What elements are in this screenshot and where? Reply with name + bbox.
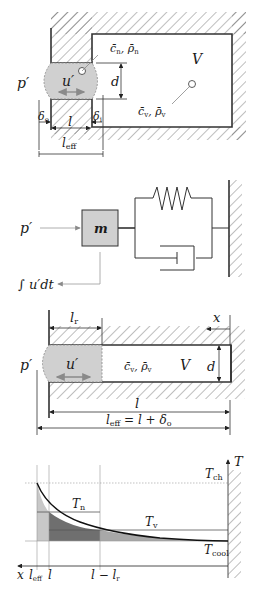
panel-mass-spring-damper: p′ m ∫ u′dt (18, 180, 242, 292)
pressure-label: p′ (17, 75, 30, 91)
T-axis-label: T (234, 454, 244, 469)
panel-tube-resonator: lr x p′ u′ c̄v, ρ̄v V d l leff = l + δo (20, 310, 245, 435)
diameter-label: d (207, 359, 215, 374)
hatch-neck-top (51, 12, 92, 63)
probe-cavity-icon (189, 81, 196, 88)
length-label: l (135, 396, 139, 411)
delta-o-label: δo (38, 110, 49, 124)
diameter-label: d (111, 74, 119, 89)
panel-helmholtz-geometry: d p′ u′ V c̄n, ρ̄n c̄v, ρ̄v δo δi l leff (17, 12, 246, 157)
velocity-label: u′ (66, 356, 79, 372)
pressure-label: p′ (20, 357, 33, 373)
spring-icon (135, 187, 212, 258)
l-eff-equation: leff = l + δo (106, 413, 172, 428)
integral-label: ∫ u′dt (18, 277, 55, 292)
hatch-bottom (51, 127, 246, 140)
pressure-label: p′ (20, 220, 33, 236)
x-tick-l-minus-lr: l − lr (91, 568, 120, 583)
diagram-canvas: d p′ u′ V c̄n, ρ̄n c̄v, ρ̄v δo δi l leff… (0, 0, 255, 601)
T-ch-label: Tch (205, 467, 223, 482)
velocity-label: u′ (62, 73, 75, 89)
l-r-label: lr (70, 310, 78, 326)
panel-temperature-profile: T Tch Tn Tv Tcool x leff l l − lr (17, 454, 244, 583)
T-n-label: Tn (72, 497, 85, 512)
T-v-label: Tv (145, 515, 158, 530)
hatch-right (232, 12, 246, 140)
x-tick-l: l (48, 568, 52, 582)
x-tick-leff: leff (29, 568, 43, 583)
damper-icon (135, 246, 194, 270)
length-label: l (68, 114, 72, 129)
x-axis-label: x (17, 568, 24, 582)
cavity-properties-label: c̄v, ρ̄v (138, 105, 166, 119)
cavity-properties-label: c̄v, ρ̄v (124, 360, 152, 374)
mass-label: m (94, 221, 108, 236)
T-cool-label: Tcool (204, 543, 229, 558)
x-axis-label: x (213, 310, 221, 325)
